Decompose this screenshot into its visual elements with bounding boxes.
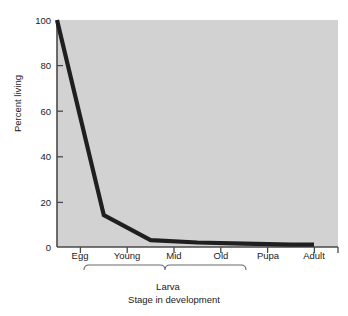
larva-group-bracket xyxy=(84,265,246,270)
x-tick-label-young: Young xyxy=(114,250,141,261)
x-axis-title: Stage in development xyxy=(0,294,348,305)
plot-background xyxy=(57,20,338,247)
larva-bracket-label-text: Larva xyxy=(156,281,180,292)
x-tick-label-mid: Mid xyxy=(166,250,181,261)
larva-bracket-label: Larva xyxy=(0,281,348,292)
x-tick-label-adult: Adult xyxy=(303,250,325,261)
survivorship-line-chart: Percent living 100 80 60 40 20 0 xyxy=(0,0,348,316)
chart-canvas xyxy=(0,0,348,316)
x-tick-label-egg: Egg xyxy=(72,250,89,261)
x-tick-label-pupa: Pupa xyxy=(257,250,279,261)
x-tick-label-old: Old xyxy=(214,250,229,261)
